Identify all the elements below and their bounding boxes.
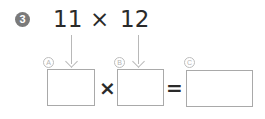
multiply-sign: ×: [99, 78, 116, 98]
answer-box-b[interactable]: [117, 69, 164, 106]
arrow-down-icon: [132, 55, 145, 68]
expression-left-operand: 11: [53, 5, 82, 33]
expression-operator: ×: [90, 5, 109, 33]
expression-right-operand: 12: [120, 5, 149, 33]
box-c-label: C: [184, 57, 195, 68]
problem-number-badge: 3: [15, 12, 30, 27]
equals-sign: =: [166, 78, 183, 98]
box-a-label: A: [43, 57, 54, 68]
box-b-label: B: [114, 57, 125, 68]
arrow-down-icon: [65, 55, 78, 68]
answer-box-c[interactable]: [186, 70, 253, 107]
answer-box-a[interactable]: [47, 69, 95, 106]
